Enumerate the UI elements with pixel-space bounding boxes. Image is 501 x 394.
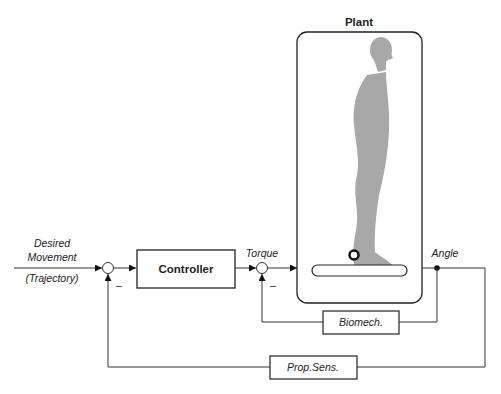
input-label-desired: Desired [34,237,71,249]
input-label-trajectory: (Trajectory) [26,272,79,284]
summing-junction-1 [103,263,114,274]
input-label-movement: Movement [27,251,77,263]
platform [312,265,407,276]
controller-label: Controller [159,263,214,275]
torque-label: Torque [246,247,278,259]
ankle-joint-icon [350,251,359,260]
plant-title: Plant [345,16,373,28]
biomech-label: Biomech. [339,316,383,328]
propsens-label: Prop.Sens. [287,361,339,373]
sum2-minus-sign: – [270,279,276,291]
summing-junction-2 [257,263,268,274]
sum1-minus-sign: – [116,279,122,291]
angle-label: Angle [431,247,459,259]
block-diagram: Desired Movement (Trajectory) – Controll… [0,0,501,394]
